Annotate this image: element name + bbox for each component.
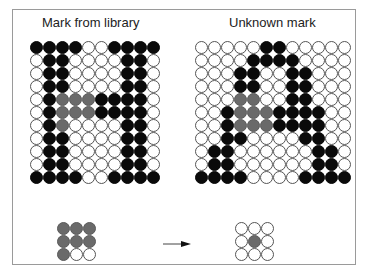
gray-dot <box>82 93 95 106</box>
white-dot <box>247 41 260 54</box>
black-dot <box>273 54 286 67</box>
white-dot <box>208 41 221 54</box>
white-dot <box>312 80 325 93</box>
black-dot <box>43 67 56 80</box>
white-dot <box>195 54 208 67</box>
black-dot <box>234 132 247 145</box>
white-dot <box>108 158 121 171</box>
black-dot <box>108 171 121 184</box>
white-dot <box>234 145 247 158</box>
black-dot <box>221 171 234 184</box>
black-dot <box>121 54 134 67</box>
black-dot <box>195 171 208 184</box>
white-dot <box>260 93 273 106</box>
black-dot <box>121 80 134 93</box>
black-dot <box>260 54 273 67</box>
white-dot <box>95 54 108 67</box>
white-dot <box>299 145 312 158</box>
white-dot <box>208 132 221 145</box>
white-dot <box>261 222 274 235</box>
black-dot <box>95 106 108 119</box>
white-dot <box>247 158 260 171</box>
white-dot <box>312 41 325 54</box>
black-dot <box>338 171 351 184</box>
white-dot <box>108 54 121 67</box>
black-dot <box>121 132 134 145</box>
unknown-mark-title: Unknown mark <box>229 15 316 30</box>
black-dot <box>286 54 299 67</box>
white-dot <box>69 132 82 145</box>
white-dot <box>30 145 43 158</box>
white-dot <box>338 67 351 80</box>
black-dot <box>108 41 121 54</box>
white-dot <box>82 145 95 158</box>
white-dot <box>82 80 95 93</box>
white-dot <box>286 171 299 184</box>
white-dot <box>338 93 351 106</box>
gray-dot <box>69 106 82 119</box>
library-mark-title: Mark from library <box>42 15 140 30</box>
white-dot <box>70 248 83 261</box>
white-dot <box>234 54 247 67</box>
gray-dot <box>234 119 247 132</box>
black-dot <box>299 106 312 119</box>
black-dot <box>43 171 56 184</box>
black-dot <box>56 41 69 54</box>
white-dot <box>325 132 338 145</box>
white-dot <box>247 132 260 145</box>
white-dot <box>299 54 312 67</box>
black-dot <box>286 67 299 80</box>
white-dot <box>195 93 208 106</box>
white-dot <box>82 67 95 80</box>
black-dot <box>221 158 234 171</box>
white-dot <box>235 222 248 235</box>
white-dot <box>195 67 208 80</box>
black-dot <box>121 119 134 132</box>
black-dot <box>134 132 147 145</box>
black-dot <box>273 119 286 132</box>
white-dot <box>312 93 325 106</box>
black-dot <box>121 67 134 80</box>
black-dot <box>121 158 134 171</box>
white-dot <box>108 119 121 132</box>
white-dot <box>235 235 248 248</box>
white-dot <box>299 158 312 171</box>
black-dot <box>312 119 325 132</box>
white-dot <box>95 119 108 132</box>
black-dot <box>325 171 338 184</box>
white-dot <box>82 158 95 171</box>
white-dot <box>69 145 82 158</box>
white-dot <box>235 248 248 261</box>
white-dot <box>248 222 261 235</box>
white-dot <box>147 158 160 171</box>
black-dot <box>121 171 134 184</box>
white-dot <box>286 145 299 158</box>
white-dot <box>195 41 208 54</box>
gray-dot <box>69 93 82 106</box>
white-dot <box>195 80 208 93</box>
library-mark-grid <box>30 41 160 184</box>
white-dot <box>286 41 299 54</box>
black-dot <box>134 93 147 106</box>
gray-dot <box>70 222 83 235</box>
black-dot <box>134 119 147 132</box>
white-dot <box>261 235 274 248</box>
library-window-grid <box>57 222 96 261</box>
white-dot <box>95 145 108 158</box>
white-dot <box>208 80 221 93</box>
white-dot <box>147 145 160 158</box>
white-dot <box>108 67 121 80</box>
white-dot <box>30 132 43 145</box>
white-dot <box>195 106 208 119</box>
gray-dot <box>248 235 261 248</box>
white-dot <box>248 248 261 261</box>
white-dot <box>221 93 234 106</box>
white-dot <box>312 54 325 67</box>
white-dot <box>30 93 43 106</box>
gray-dot <box>234 106 247 119</box>
black-dot <box>56 54 69 67</box>
black-dot <box>260 41 273 54</box>
white-dot <box>273 145 286 158</box>
white-dot <box>30 106 43 119</box>
black-dot <box>234 67 247 80</box>
